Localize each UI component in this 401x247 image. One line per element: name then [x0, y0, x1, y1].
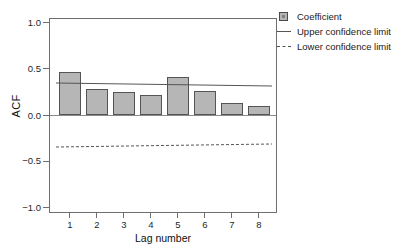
y-tick-label-neg1.0: −1.0 [5, 202, 41, 213]
legend-item-lower-confidence-limit: Lower confidence limit [276, 40, 401, 53]
legend-label-upper-confidence-limit: Upper confidence limit [297, 26, 391, 37]
y-tick-label-1.0: 1.0 [5, 17, 41, 28]
y-tick-label-neg0.5: −0.5 [5, 155, 41, 166]
x-tick-mark-2 [96, 213, 97, 218]
y-tick-label-0.5: 0.5 [5, 63, 41, 74]
x-tick-mark-7 [231, 213, 232, 218]
dashed-line-icon [276, 41, 292, 52]
x-tick-label-5: 5 [168, 219, 188, 230]
chart-legend: Coefficient Upper confidence limit Lower… [276, 10, 401, 55]
legend-item-coefficient: Coefficient [276, 10, 401, 23]
x-tick-mark-1 [69, 213, 70, 218]
x-tick-mark-8 [258, 213, 259, 218]
legend-label-lower-confidence-limit: Lower confidence limit [297, 41, 391, 52]
x-tick-label-3: 3 [114, 219, 134, 230]
coefficient-swatch-icon [276, 11, 292, 22]
legend-label-coefficient: Coefficient [297, 11, 342, 22]
chart-title: Mean ZH SDY Domain [0, 0, 278, 2]
x-tick-label-6: 6 [195, 219, 215, 230]
chart-canvas: Mean ZH SDY Domain 1.0 0.5 0.0 −0.5 −1.0… [0, 0, 401, 247]
lower-confidence-line [56, 144, 272, 147]
x-tick-mark-5 [177, 213, 178, 218]
x-tick-mark-6 [204, 213, 205, 218]
plot-area [49, 18, 277, 213]
solid-line-icon [276, 26, 292, 37]
x-axis-title: Lag number [49, 232, 277, 244]
x-tick-mark-4 [150, 213, 151, 218]
x-tick-mark-3 [123, 213, 124, 218]
x-tick-label-8: 8 [249, 219, 269, 230]
x-tick-label-7: 7 [222, 219, 242, 230]
x-tick-label-1: 1 [60, 219, 80, 230]
x-tick-label-4: 4 [141, 219, 161, 230]
y-axis-title: ACF [10, 76, 22, 136]
x-tick-label-2: 2 [87, 219, 107, 230]
legend-item-upper-confidence-limit: Upper confidence limit [276, 25, 401, 38]
upper-confidence-line [56, 83, 272, 86]
confidence-limit-lines [50, 19, 276, 212]
